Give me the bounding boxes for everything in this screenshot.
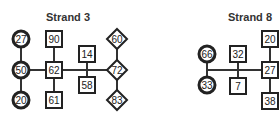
node-diamond: 83 (107, 90, 127, 110)
strand-diagram: 6633327202738Strand 8 (199, 11, 278, 109)
node-label: 83 (111, 95, 123, 106)
node-label: 72 (111, 65, 123, 76)
node-square: 38 (262, 93, 278, 109)
node-square: 58 (79, 77, 95, 93)
node-square: 61 (46, 92, 62, 108)
node-label: 20 (15, 95, 27, 106)
node-square: 20 (262, 31, 278, 47)
node-label: 50 (15, 65, 27, 76)
node-label: 90 (48, 34, 60, 45)
node-square: 62 (46, 62, 62, 78)
node-label: 61 (48, 95, 60, 106)
strand-diagram-canvas: 2750209062611458607283Strand 36633327202… (0, 0, 279, 124)
diagram-title: Strand 3 (46, 11, 90, 23)
node-label: 7 (235, 81, 241, 92)
node-square: 14 (79, 46, 95, 62)
node-square: 7 (230, 78, 246, 94)
node-label: 58 (81, 80, 93, 91)
node-label: 60 (111, 34, 123, 45)
node-label: 33 (201, 80, 213, 91)
node-label: 66 (201, 49, 213, 60)
node-circle: 50 (13, 62, 29, 78)
node-label: 38 (264, 96, 276, 107)
node-circle: 66 (199, 46, 215, 62)
node-label: 62 (48, 65, 60, 76)
diagram-title: Strand 8 (228, 11, 272, 23)
node-label: 27 (264, 65, 276, 76)
node-square: 32 (230, 46, 246, 62)
node-square: 27 (262, 62, 278, 78)
node-square: 90 (46, 31, 62, 47)
node-diamond: 72 (107, 60, 127, 80)
node-label: 27 (15, 34, 27, 45)
strand-diagram: 2750209062611458607283Strand 3 (13, 11, 127, 110)
node-circle: 20 (13, 92, 29, 108)
node-diamond: 60 (107, 29, 127, 49)
node-circle: 33 (199, 77, 215, 93)
node-circle: 27 (13, 31, 29, 47)
node-label: 14 (81, 49, 93, 60)
node-label: 32 (232, 49, 244, 60)
node-label: 20 (264, 34, 276, 45)
